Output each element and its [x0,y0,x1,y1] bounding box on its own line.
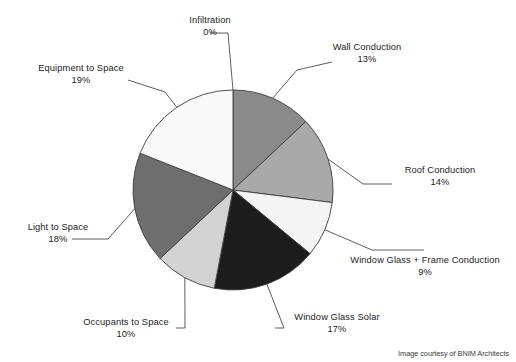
leader-line [325,230,424,250]
slice-label-equipment-to-space-percent: 19% [20,74,142,86]
image-credit: Image courtesy of BNIM Architects [398,349,509,358]
slice-label-window-glass-solar-percent: 17% [280,323,394,335]
slice-label-window-glass-frame-conduction-percent: 9% [337,266,513,278]
slice-label-window-glass-frame-conduction-name: Window Glass + Frame Conduction [337,254,513,266]
slice-label-light-to-space-name: Light to Space [12,221,104,233]
slice-label-equipment-to-space-name: Equipment to Space [20,62,142,74]
slice-label-wall-conduction-percent: 13% [312,53,422,65]
slice-label-roof-conduction-name: Roof Conduction [384,164,496,176]
slice-label-infiltration-percent: 0% [164,26,256,38]
slice-label-window-glass-solar-name: Window Glass Solar [280,311,394,323]
slice-label-roof-conduction: Roof Conduction 14% [384,164,496,188]
slice-label-infiltration-name: Infiltration [164,14,256,26]
slice-label-window-glass-solar: Window Glass Solar 17% [280,311,394,335]
pie-chart-figure: Infiltration 0% Wall Conduction 13% Roof… [0,0,516,362]
slice-label-wall-conduction: Wall Conduction 13% [312,41,422,65]
slice-label-occupants-to-space-percent: 10% [68,328,184,340]
slice-label-roof-conduction-percent: 14% [384,176,496,188]
pie-slice-group [133,90,333,290]
slice-label-infiltration: Infiltration 0% [164,14,256,38]
slice-label-equipment-to-space: Equipment to Space 19% [20,62,142,86]
leader-line [210,33,233,90]
leader-line [328,159,392,184]
slice-label-wall-conduction-name: Wall Conduction [312,41,422,53]
slice-label-occupants-to-space-name: Occupants to Space [68,316,184,328]
slice-label-window-glass-frame-conduction: Window Glass + Frame Conduction 9% [337,254,513,278]
leader-line [273,62,332,98]
slice-label-occupants-to-space: Occupants to Space 10% [68,316,184,340]
slice-label-light-to-space-percent: 18% [12,233,104,245]
slice-label-light-to-space: Light to Space 18% [12,221,104,245]
